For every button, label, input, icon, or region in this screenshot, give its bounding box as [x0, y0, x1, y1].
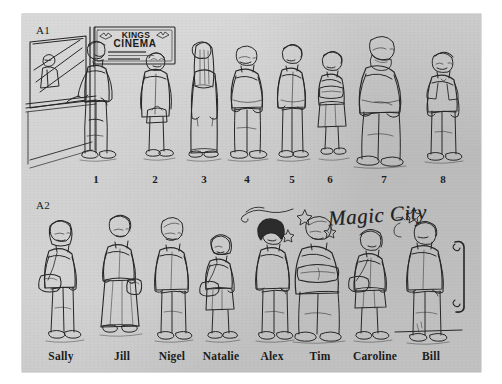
figure-a1-8	[425, 52, 463, 163]
a2-caption-sally: Sally	[48, 350, 73, 362]
a2-caption-natalie: Natalie	[203, 350, 240, 362]
figure-a2-nigel	[155, 217, 194, 342]
a1-caption-8: 8	[440, 173, 446, 185]
figure-a2-bill	[407, 222, 450, 345]
a2-caption-jill: Jill	[114, 350, 130, 362]
cinema-sign: KINGS CINEMA	[96, 29, 173, 63]
figure-a1-2	[141, 53, 176, 161]
a2-caption-alex: Alex	[260, 350, 283, 362]
figure-a1-4	[228, 46, 268, 161]
figure-a1-5	[277, 45, 310, 162]
a1-caption-row: 12345678	[22, 173, 481, 189]
a1-caption-3: 3	[201, 173, 207, 185]
a2-caption-caroline: Caroline	[353, 350, 397, 362]
cinema-sign-listing	[108, 51, 162, 62]
figure-a2-tim	[293, 216, 345, 343]
a1-caption-6: 6	[327, 173, 333, 185]
door-handle	[395, 242, 464, 332]
a2-caption-tim: Tim	[310, 350, 331, 362]
panel-label-a1: A1	[36, 24, 50, 36]
figure-a2-alex	[256, 219, 295, 342]
a1-caption-1: 1	[93, 173, 99, 185]
figure-a2-natalie	[200, 235, 240, 343]
a1-caption-7: 7	[381, 173, 387, 185]
figure-a1-7	[354, 36, 406, 168]
line-art-layer	[0, 0, 502, 384]
figure-a2-sally	[39, 220, 84, 342]
figure-a2-jill	[100, 215, 142, 336]
a1-caption-5: 5	[289, 173, 295, 185]
figure-a1-3	[187, 42, 221, 162]
a2-caption-bill: Bill	[422, 350, 440, 362]
a2-caption-nigel: Nigel	[159, 350, 186, 362]
a1-caption-2: 2	[152, 173, 158, 185]
panel-label-a2: A2	[36, 199, 50, 211]
a2-caption-row: SallyJillNigelNatalieAlexTimCarolineBill	[22, 350, 481, 366]
figure-a2-caroline	[349, 229, 392, 342]
cinema-sign-line2: CINEMA	[102, 38, 168, 49]
a1-caption-4: 4	[244, 173, 250, 185]
figure-a1-6	[318, 52, 349, 161]
scanned-page: A1 A2 KINGS CINEMA Magic City 12345678 S…	[0, 0, 502, 384]
